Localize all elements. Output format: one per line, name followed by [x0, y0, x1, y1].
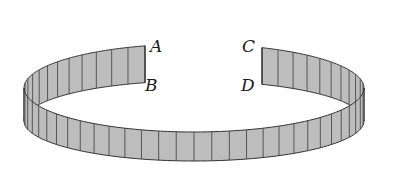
label-d: D: [241, 77, 255, 94]
label-b: B: [145, 77, 158, 94]
label-a: A: [150, 38, 162, 55]
ring-diagram: A B C D: [0, 0, 395, 179]
label-c: C: [242, 38, 255, 55]
cut-ring-band: [0, 0, 395, 179]
